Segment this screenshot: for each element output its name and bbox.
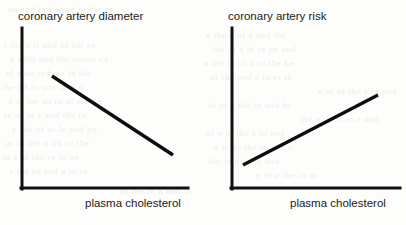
- trend-line-increasing-risk: [243, 95, 378, 165]
- chart-panel-coronary-artery-diameter: coronary artery diameter plasma choleste…: [0, 0, 203, 225]
- x-axis-label-diameter: plasma cholesterol: [85, 197, 181, 210]
- trend-svg-diameter: [0, 0, 203, 225]
- trend-svg-risk: [203, 0, 406, 225]
- x-axis-label-risk: plasma cholesterol: [290, 197, 386, 210]
- figure-canvas: an and in t were to the mt the o it and …: [0, 0, 406, 225]
- trend-line-decreasing-diameter: [52, 76, 173, 155]
- chart-panel-coronary-artery-risk: coronary artery risk plasma cholesterol: [203, 0, 406, 225]
